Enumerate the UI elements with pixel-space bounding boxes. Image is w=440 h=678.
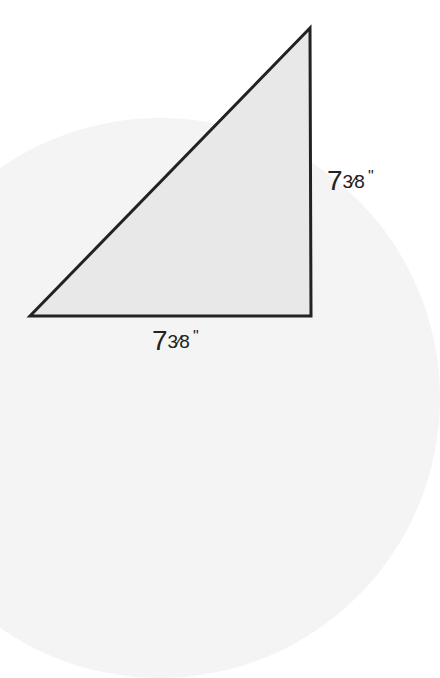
right-side-unit: " [368, 168, 374, 185]
right-side-length-label: 73⁄8" [327, 167, 374, 195]
right-triangle [30, 28, 311, 316]
bottom-side-length-label: 73⁄8" [152, 327, 199, 355]
bottom-side-unit: " [193, 328, 199, 345]
bottom-side-whole: 7 [152, 325, 168, 356]
right-side-whole: 7 [327, 165, 343, 196]
right-side-fraction: 3⁄8 [343, 171, 364, 192]
bottom-side-fraction: 3⁄8 [168, 331, 189, 352]
